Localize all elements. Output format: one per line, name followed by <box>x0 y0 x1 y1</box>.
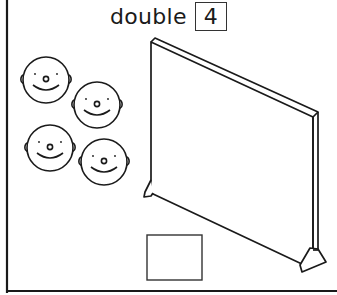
whiteboard-icon <box>144 38 326 272</box>
instruction-title: double 4 <box>110 0 227 32</box>
faces-group <box>21 57 129 185</box>
face-icon <box>72 82 122 128</box>
instruction-word: double <box>110 4 187 29</box>
face-icon <box>79 139 129 185</box>
number-box: 4 <box>195 2 227 31</box>
face-icon <box>25 125 75 171</box>
illustration <box>0 0 337 295</box>
whiteboard-face <box>151 42 313 265</box>
worksheet-panel: double 4 <box>0 0 337 295</box>
answer-box[interactable] <box>147 235 202 280</box>
face-icon <box>21 57 71 103</box>
